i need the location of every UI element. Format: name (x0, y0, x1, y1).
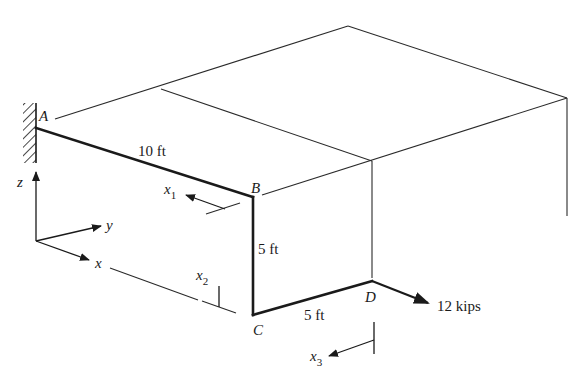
label-point-C: C (253, 322, 264, 338)
section-x1 (186, 195, 240, 214)
reference-box (55, 26, 567, 278)
label-point-B: B (251, 180, 260, 196)
coordinate-axes (36, 172, 101, 260)
label-point-A: A (38, 108, 49, 124)
fixed-support-icon (23, 103, 36, 163)
x-dimension-line (110, 268, 198, 300)
label-x2: x2 (195, 267, 208, 287)
load-arrow (372, 281, 428, 303)
axis-label-z: z (16, 174, 23, 190)
dim-BC: 5 ft (258, 241, 279, 257)
label-x1: x1 (163, 181, 176, 201)
axis-label-y: y (104, 217, 113, 233)
frame-diagram: A B C D 10 ft 5 ft 5 ft 12 kips z y x x1… (0, 0, 588, 382)
label-point-D: D (364, 289, 376, 305)
dim-AB: 10 ft (138, 143, 167, 159)
y-axis (36, 226, 101, 241)
load-label: 12 kips (437, 298, 481, 314)
axis-label-x: x (94, 255, 102, 271)
member-AB (36, 128, 253, 197)
x-axis (36, 241, 89, 260)
label-x3: x3 (309, 348, 323, 368)
dim-CD: 5 ft (304, 307, 325, 323)
section-x3 (329, 322, 374, 356)
